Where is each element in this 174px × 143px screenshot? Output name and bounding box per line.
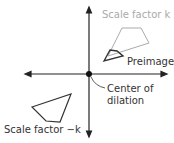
- axes: [25, 7, 167, 137]
- arrow-up-icon: [87, 7, 92, 13]
- label-scale-k: Scale factor k: [102, 9, 170, 20]
- arrow-left-icon: [25, 72, 31, 77]
- label-preimage: Preimage: [127, 56, 174, 67]
- label-center-2: dilation: [107, 95, 144, 106]
- label-center-1: Center of: [107, 83, 153, 94]
- arrow-right-icon: [161, 72, 167, 77]
- image-scale-k: [108, 28, 149, 56]
- dilation-diagram: [0, 0, 174, 143]
- arrow-down-icon: [87, 131, 92, 137]
- center-leader-line: [91, 77, 105, 88]
- label-scale-neg-k: Scale factor −k: [4, 124, 81, 135]
- center-point: [86, 71, 92, 77]
- image-scale-neg-k: [32, 94, 71, 122]
